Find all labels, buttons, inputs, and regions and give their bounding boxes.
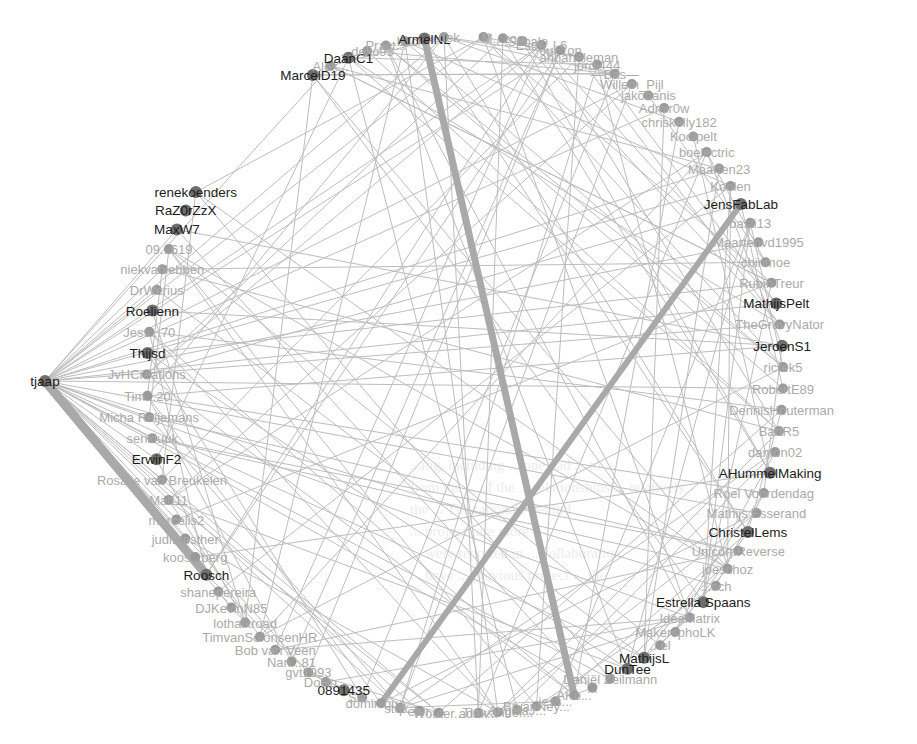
node-label: Maarten23 xyxy=(688,162,750,177)
node-labels: tjaapMarcelD19Alex...DaanC1...dexo93Prac… xyxy=(30,30,834,721)
node-label: BartR5 xyxy=(759,424,799,439)
node-label: lothalkroad xyxy=(213,616,277,631)
node-label: Bob van Veen xyxy=(235,643,316,658)
node-label: niekvanlebben xyxy=(120,262,204,277)
node-label: Roosch xyxy=(183,568,229,583)
node-label: chinmoe xyxy=(741,255,790,270)
node-label: JvHCreations xyxy=(108,367,187,382)
node-label: boelectric xyxy=(679,145,735,160)
node-label: RobertE89 xyxy=(752,382,814,397)
node-label: JeroenS1 xyxy=(753,339,811,354)
node-label: MaxW7 xyxy=(154,222,200,237)
node-label: Daniël Zeilmann xyxy=(563,672,657,687)
node-label: Jess...70 xyxy=(123,325,175,340)
node-label: JensFabLab xyxy=(704,197,778,212)
node-label: Koolpelt xyxy=(670,129,717,144)
node-label: koos...berg xyxy=(163,550,227,565)
network-graph: ...ing, including ... one had ... to ...… xyxy=(0,0,917,744)
node-label: Estrella Spaans xyxy=(656,595,751,610)
node-label: MathijsPelt xyxy=(743,296,809,311)
edge xyxy=(349,58,518,710)
edge xyxy=(260,41,405,636)
node-label: shanepereira xyxy=(180,585,257,600)
node-label: MakersphoLK xyxy=(635,625,716,640)
node-label: senkluuk xyxy=(127,431,179,446)
node-label: Mathijs Esserand xyxy=(707,506,807,521)
node-label: ...sch xyxy=(700,579,731,594)
node-label: DennisHouterman xyxy=(729,403,834,418)
node-label: 09...619 xyxy=(145,242,192,257)
node-label: ricrek5 xyxy=(764,360,803,375)
edge xyxy=(313,74,615,75)
node-label: RubinTreur xyxy=(739,276,804,291)
node-label: DJKevinN85 xyxy=(195,601,267,616)
node-label: RaZ0rZzX xyxy=(155,203,217,218)
node-label: damon02 xyxy=(748,445,802,460)
node-label: ErwinF2 xyxy=(132,452,182,467)
edge xyxy=(162,262,765,269)
node-label: Matt11 xyxy=(149,493,188,508)
node-label: Micha Reijemans xyxy=(99,410,199,425)
node-label: ...dek xyxy=(428,30,460,45)
node-label: Koolen xyxy=(710,179,750,194)
node-label: AHummelMaking xyxy=(719,466,822,481)
node-label: Tim...20 xyxy=(124,389,170,404)
node-label: chriskelly182 xyxy=(642,115,717,130)
node-label: basti13 xyxy=(729,216,771,231)
node-label: tjaap xyxy=(30,374,59,389)
node-label: Roelienn xyxy=(126,304,179,319)
edge xyxy=(169,84,632,500)
node-label: TimvanSolonsenHR xyxy=(202,630,317,645)
node-label: joeschoz xyxy=(701,562,753,577)
node-label: IdeaMatrix xyxy=(659,611,720,626)
node-label: Maartenvd1995 xyxy=(713,235,803,250)
node-label: UnicornReverse xyxy=(692,544,785,559)
node-label: renekoenders xyxy=(155,185,238,200)
node-label: DrWerius xyxy=(130,283,184,298)
node-label: TheGravyNator xyxy=(735,317,825,332)
node-label: Rosalie van Breukelen xyxy=(97,473,227,488)
node-label: ChristelLems xyxy=(709,525,788,540)
node-label: marcelis2 xyxy=(149,513,205,528)
node-label: judithesther xyxy=(151,532,220,547)
node-label: Roel Voordendag xyxy=(714,486,814,501)
node-label: Thijsd xyxy=(129,346,165,361)
